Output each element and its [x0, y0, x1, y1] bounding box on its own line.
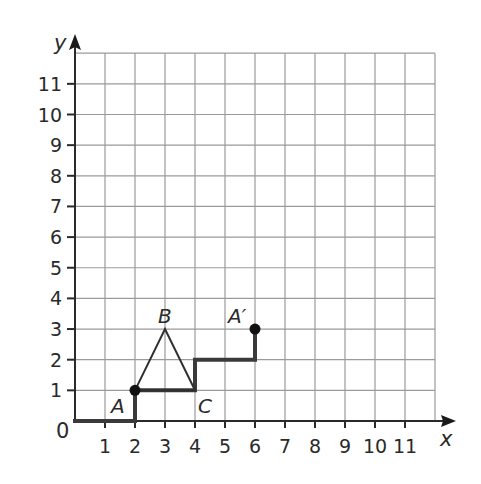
- x-tick-label: 2: [129, 435, 141, 457]
- x-tick-label: 10: [363, 435, 387, 457]
- y-tick-label: 1: [50, 379, 62, 401]
- grid-lines: [75, 53, 435, 421]
- y-tick-label: 11: [38, 73, 62, 95]
- y-axis-label: y: [53, 31, 67, 55]
- x-tick-label: 6: [249, 435, 261, 457]
- x-tick-label: 11: [393, 435, 417, 457]
- y-tick-label: 6: [50, 226, 62, 248]
- x-axis-arrow-icon: [441, 415, 456, 427]
- x-tick-label: 3: [159, 435, 171, 457]
- y-tick-label: 7: [50, 195, 62, 217]
- label-b: B: [158, 304, 172, 328]
- x-tick-label: 4: [189, 435, 201, 457]
- coordinate-grid: 12345678910111234567891011 x y 0 A B C A…: [0, 0, 481, 484]
- y-tick-label: 8: [50, 165, 62, 187]
- label-a: A: [109, 394, 125, 418]
- axis-ticks: [67, 84, 405, 428]
- x-tick-label: 8: [309, 435, 321, 457]
- x-tick-label: 1: [99, 435, 111, 457]
- axes: [69, 34, 456, 427]
- x-axis-label: x: [439, 427, 453, 451]
- y-tick-label: 2: [50, 349, 62, 371]
- point-dot: [250, 324, 261, 335]
- point-dot: [130, 385, 141, 396]
- x-tick-label: 7: [279, 435, 291, 457]
- y-tick-label: 9: [50, 134, 62, 156]
- x-tick-label: 5: [219, 435, 231, 457]
- y-tick-label: 10: [38, 104, 62, 126]
- label-c: C: [198, 394, 212, 418]
- y-tick-label: 4: [50, 287, 62, 309]
- x-tick-label: 9: [339, 435, 351, 457]
- origin-label: 0: [56, 419, 69, 443]
- axis-tick-labels: 12345678910111234567891011: [38, 73, 417, 457]
- y-tick-label: 5: [50, 257, 62, 279]
- label-a-prime: A′: [226, 304, 247, 328]
- y-tick-label: 3: [50, 318, 62, 340]
